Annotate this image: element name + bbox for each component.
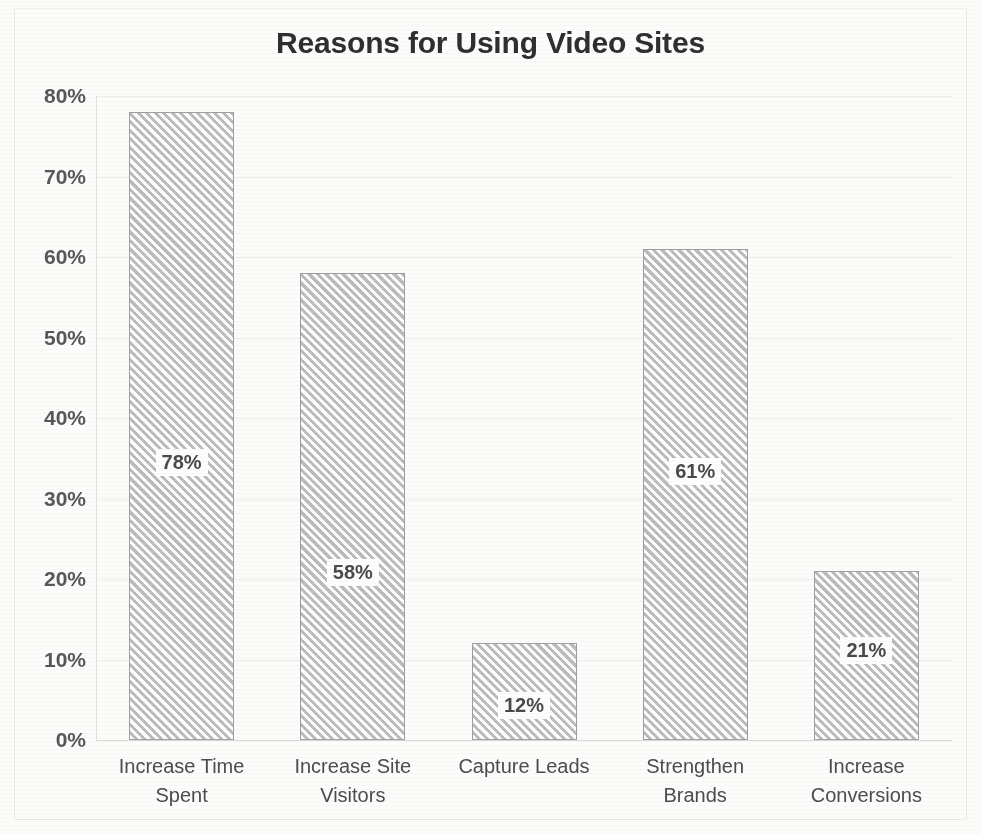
x-category-label-line: Strengthen [615, 752, 775, 781]
x-category-label-line: Increase Site [273, 752, 433, 781]
y-tick-label-60: 60% [16, 245, 86, 269]
x-category-label-line: Visitors [273, 781, 433, 810]
bar-value-label: 78% [156, 449, 208, 476]
bar-value-label: 61% [669, 458, 721, 485]
x-category-label: IncreaseConversions [786, 752, 946, 810]
x-category-label-line: Spent [102, 781, 262, 810]
gridline-0 [96, 740, 952, 741]
y-tick-label-80: 80% [16, 84, 86, 108]
bar-value-label: 12% [498, 692, 550, 719]
y-axis-tick-labels: 80%70%60%50%40%30%20%10%0% [8, 96, 86, 740]
x-category-label-line: Increase [786, 752, 946, 781]
bar[interactable] [129, 112, 234, 740]
bar-slot: 58% [300, 273, 405, 740]
y-tick-label-10: 10% [16, 648, 86, 672]
plot-area: 78%58%12%61%21% [96, 96, 952, 740]
y-tick-label-50: 50% [16, 326, 86, 350]
bar[interactable] [643, 249, 748, 740]
y-tick-label-0: 0% [16, 728, 86, 752]
x-axis-category-labels: Increase TimeSpentIncrease SiteVisitorsC… [96, 752, 952, 828]
bar-slot: 61% [643, 249, 748, 740]
bar-slot: 12% [472, 643, 577, 740]
y-tick-label-70: 70% [16, 165, 86, 189]
bar-slot: 78% [129, 112, 234, 740]
x-category-label-line: Capture Leads [444, 752, 604, 781]
chart-page: Reasons for Using Video Sites 80%70%60%5… [0, 0, 981, 834]
gridline-80 [96, 96, 952, 97]
x-category-label-line: Conversions [786, 781, 946, 810]
x-category-label: StrengthenBrands [615, 752, 775, 810]
y-tick-label-30: 30% [16, 487, 86, 511]
x-category-label: Increase SiteVisitors [273, 752, 433, 810]
y-tick-label-40: 40% [16, 406, 86, 430]
bar-slot: 21% [814, 571, 919, 740]
y-axis-line [96, 96, 97, 741]
y-tick-label-20: 20% [16, 567, 86, 591]
x-category-label: Increase TimeSpent [102, 752, 262, 810]
x-category-label: Capture Leads [444, 752, 604, 781]
x-category-label-line: Brands [615, 781, 775, 810]
chart-title: Reasons for Using Video Sites [0, 26, 981, 60]
bar-value-label: 58% [327, 559, 379, 586]
bar[interactable] [300, 273, 405, 740]
x-category-label-line: Increase Time [102, 752, 262, 781]
bar-value-label: 21% [840, 637, 892, 664]
